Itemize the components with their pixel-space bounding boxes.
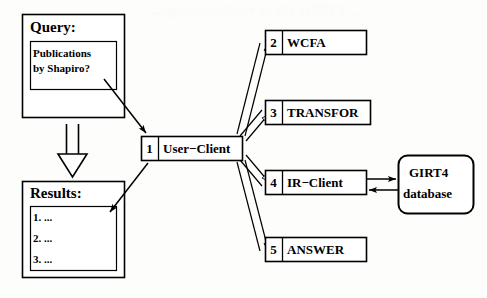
query-text-line-1: Publications (33, 48, 91, 60)
query-panel-title: Query: (30, 20, 76, 36)
node-2-label: WCFA (287, 35, 326, 51)
query-to-results-arrow (58, 124, 87, 177)
node-5-label: ANSWER (287, 242, 344, 258)
database-label-line-1: GIRT4 (409, 165, 448, 181)
node-4-label: IR−Client (287, 175, 343, 191)
query-text-line-2: by Shapiro? (33, 63, 90, 75)
node-1-number: 1 (142, 141, 157, 157)
node-3-number: 3 (266, 105, 281, 121)
results-item-3: 3. ... (33, 254, 52, 266)
connector-1-to-4 (240, 155, 268, 186)
database-label-line-2: database (403, 186, 452, 202)
node-2-number: 2 (266, 35, 281, 51)
connector-1-to-5 (237, 160, 268, 251)
node-4-number: 4 (266, 175, 281, 191)
connector-1-to-3 (240, 110, 268, 141)
node-5-number: 5 (266, 242, 281, 258)
results-item-2: 2. ... (33, 233, 52, 245)
node-1-label: User−Client (163, 141, 230, 157)
results-item-1: 1. ... (33, 212, 52, 224)
diagram-svg (0, 0, 487, 298)
node-3-label: TRANSFOR (287, 105, 359, 121)
results-panel-title: Results: (30, 186, 82, 202)
diagram-canvas: ...ographic.Store to the GIRT4 ... (0, 0, 487, 298)
